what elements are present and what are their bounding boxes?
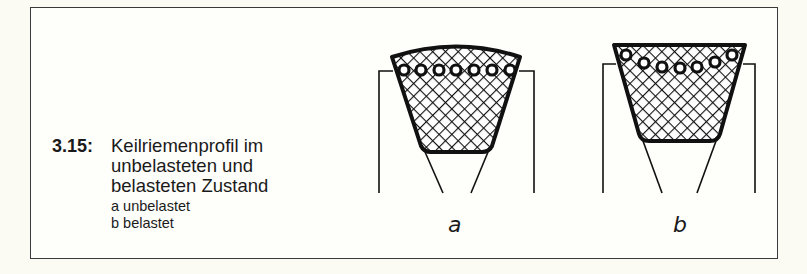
panel-label-b: b xyxy=(673,212,687,237)
belt-profile-a xyxy=(379,47,534,194)
belt-profile-b xyxy=(603,45,755,193)
panel-label-a: a xyxy=(448,212,461,237)
